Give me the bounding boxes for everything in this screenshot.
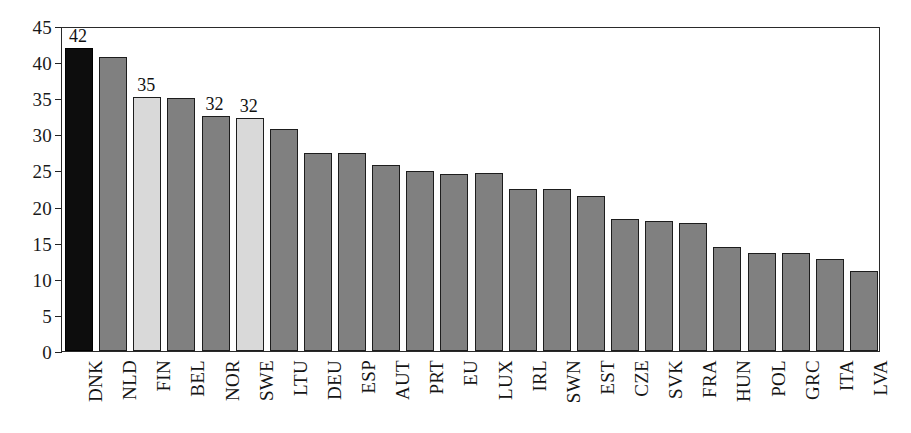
value-label-nor: 32 [197, 95, 233, 113]
x-tick-label-bel: BEL [188, 360, 207, 397]
x-tick-label-fin: FIN [154, 360, 173, 392]
x-tick-label-irl: IRL [530, 360, 549, 392]
x-tick-label-esp: ESP [359, 360, 378, 394]
bar-deu[interactable] [304, 153, 332, 351]
bar-lux[interactable] [475, 173, 503, 351]
x-tick-label-ltu: LTU [291, 360, 310, 396]
x-tick-label-eu: EU [461, 360, 480, 386]
y-tick-label: 25 [24, 162, 52, 181]
x-tick-label-nor: NOR [223, 360, 242, 401]
x-tick-label-cze: CZE [632, 360, 651, 397]
x-axis: DNKNLDFINBELNORSWELTUDEUESPAUTPRTEULUXIR… [61, 356, 880, 433]
bar-chart: 051015202530354045 42353232 DNKNLDFINBEL… [0, 0, 911, 433]
bar-cze[interactable] [611, 219, 639, 351]
y-tick-label: 5 [24, 306, 52, 325]
bar-aut[interactable] [372, 165, 400, 351]
x-tick-label-est: EST [598, 360, 617, 395]
x-tick-label-dnk: DNK [86, 360, 105, 402]
y-tick-mark [55, 352, 62, 353]
x-tick-label-aut: AUT [393, 360, 412, 400]
x-tick-label-swn: SWN [564, 360, 583, 403]
y-axis: 051015202530354045 [24, 14, 52, 366]
x-tick-label-fra: FRA [700, 360, 719, 398]
value-label-fin: 35 [128, 76, 164, 94]
x-tick-label-lux: LUX [496, 360, 515, 400]
value-label-dnk: 42 [60, 27, 96, 45]
bar-esp[interactable] [338, 153, 366, 351]
x-tick-label-ita: ITA [837, 360, 856, 391]
y-tick-label: 10 [24, 270, 52, 289]
y-tick-label: 20 [24, 198, 52, 217]
bar-fin[interactable] [133, 97, 161, 351]
y-tick-label: 35 [24, 90, 52, 109]
bar-hun[interactable] [713, 247, 741, 351]
bar-swn[interactable] [543, 189, 571, 351]
bar-grc[interactable] [782, 253, 810, 351]
bar-bel[interactable] [167, 98, 195, 352]
bar-prt[interactable] [406, 171, 434, 351]
plot-area [61, 27, 880, 352]
y-tick-label: 40 [24, 54, 52, 73]
x-tick-label-svk: SVK [666, 360, 685, 399]
y-tick-label: 15 [24, 234, 52, 253]
x-tick-label-swe: SWE [257, 360, 276, 401]
x-tick-label-deu: DEU [325, 360, 344, 400]
bar-eu[interactable] [440, 174, 468, 351]
bar-est[interactable] [577, 196, 605, 351]
bar-irl[interactable] [509, 189, 537, 351]
bar-svk[interactable] [645, 221, 673, 351]
bar-pol[interactable] [748, 253, 776, 351]
bar-fra[interactable] [679, 223, 707, 351]
x-tick-label-nld: NLD [120, 360, 139, 400]
x-tick-label-prt: PRT [427, 360, 446, 395]
bar-ita[interactable] [816, 259, 844, 351]
bars-layer [62, 28, 879, 351]
y-tick-label: 0 [24, 343, 52, 362]
x-tick-label-hun: HUN [734, 360, 753, 402]
value-label-swe: 32 [231, 97, 267, 115]
y-tick-label: 30 [24, 126, 52, 145]
bar-lva[interactable] [850, 271, 878, 351]
bar-nor[interactable] [202, 116, 230, 351]
x-tick-label-lva: LVA [871, 360, 890, 396]
bar-nld[interactable] [99, 57, 127, 351]
x-tick-label-grc: GRC [803, 360, 822, 400]
bar-ltu[interactable] [270, 129, 298, 351]
bar-swe[interactable] [236, 118, 264, 351]
bar-dnk[interactable] [65, 48, 93, 351]
y-tick-label: 45 [24, 18, 52, 37]
x-tick-label-pol: POL [769, 360, 788, 397]
